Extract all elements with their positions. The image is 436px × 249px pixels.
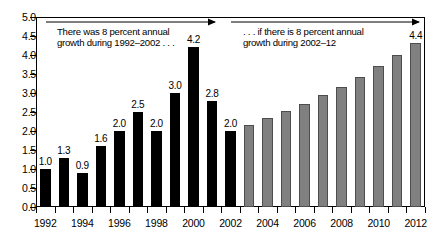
x-tick-mark — [351, 207, 352, 213]
bar-2005 — [281, 111, 292, 207]
x-tick-mark — [406, 207, 407, 213]
bar-value-label-1996: 2.0 — [105, 119, 133, 129]
bar-2001 — [207, 101, 218, 207]
bar-1999 — [170, 93, 181, 207]
x-tick-label: 2000 — [175, 217, 211, 229]
x-tick-mark — [425, 207, 426, 213]
x-tick-label: 2008 — [324, 217, 360, 229]
x-tick-label: 2004 — [250, 217, 286, 229]
bar-value-label-1994: 0.9 — [68, 161, 96, 171]
annotation-right-text: . . . if there is 8 percent annual growt… — [243, 26, 364, 49]
x-tick-mark — [314, 207, 315, 213]
bar-value-label-2001: 2.8 — [198, 89, 226, 99]
x-tick-mark — [332, 207, 333, 213]
x-tick-label: 2002 — [213, 217, 249, 229]
bar-2004 — [262, 118, 273, 207]
x-tick-mark — [36, 207, 37, 213]
x-tick-label: 2012 — [398, 217, 434, 229]
bar-chart: 0.00.51.01.52.02.53.03.54.04.55.0 1.01.3… — [0, 0, 436, 249]
x-tick-mark — [92, 207, 93, 213]
bar-2011 — [392, 55, 403, 207]
x-tick-label: 2010 — [361, 217, 397, 229]
bar-1992 — [40, 169, 51, 207]
bar-value-label-1993: 1.3 — [50, 146, 78, 156]
bar-value-label-2012: 4.4 — [402, 31, 430, 41]
x-tick-mark — [73, 207, 74, 213]
y-axis: 0.00.51.01.52.02.53.03.54.04.55.0 — [0, 0, 36, 249]
bar-value-label-2002: 2.0 — [217, 119, 245, 129]
x-tick-mark — [277, 207, 278, 213]
x-tick-mark — [388, 207, 389, 213]
bar-2007 — [318, 95, 329, 207]
annotation-left-text: There was 8 percent annual growth during… — [57, 26, 175, 49]
bar-1998 — [151, 131, 162, 207]
bar-2012 — [410, 43, 421, 207]
bar-1995 — [96, 146, 107, 207]
bar-2009 — [355, 77, 366, 207]
x-tick-mark — [166, 207, 167, 213]
x-tick-label: 1996 — [101, 217, 137, 229]
x-tick-label: 1994 — [64, 217, 100, 229]
bar-1994 — [77, 173, 88, 207]
bar-value-label-1992: 1.0 — [31, 157, 59, 167]
bar-value-label-1997: 2.5 — [124, 100, 152, 110]
x-tick-label: 1998 — [138, 217, 174, 229]
bar-value-label-1998: 2.0 — [142, 119, 170, 129]
x-tick-mark — [147, 207, 148, 213]
bar-2002 — [225, 131, 236, 207]
x-tick-mark — [240, 207, 241, 213]
x-tick-label: 1992 — [27, 217, 63, 229]
bar-2006 — [299, 104, 310, 207]
x-tick-label: 2006 — [287, 217, 323, 229]
bar-value-label-1999: 3.0 — [161, 81, 189, 91]
x-tick-mark — [369, 207, 370, 213]
x-tick-mark — [221, 207, 222, 213]
bar-2000 — [188, 47, 199, 207]
bar-1996 — [114, 131, 125, 207]
x-tick-mark — [129, 207, 130, 213]
bar-2008 — [336, 87, 347, 207]
x-tick-mark — [295, 207, 296, 213]
bar-value-label-2000: 4.2 — [179, 35, 207, 45]
x-tick-mark — [55, 207, 56, 213]
x-tick-mark — [184, 207, 185, 213]
x-tick-mark — [258, 207, 259, 213]
bar-2010 — [373, 66, 384, 207]
x-tick-mark — [203, 207, 204, 213]
bar-value-label-1995: 1.6 — [87, 134, 115, 144]
x-tick-mark — [110, 207, 111, 213]
bar-2003 — [244, 125, 255, 207]
